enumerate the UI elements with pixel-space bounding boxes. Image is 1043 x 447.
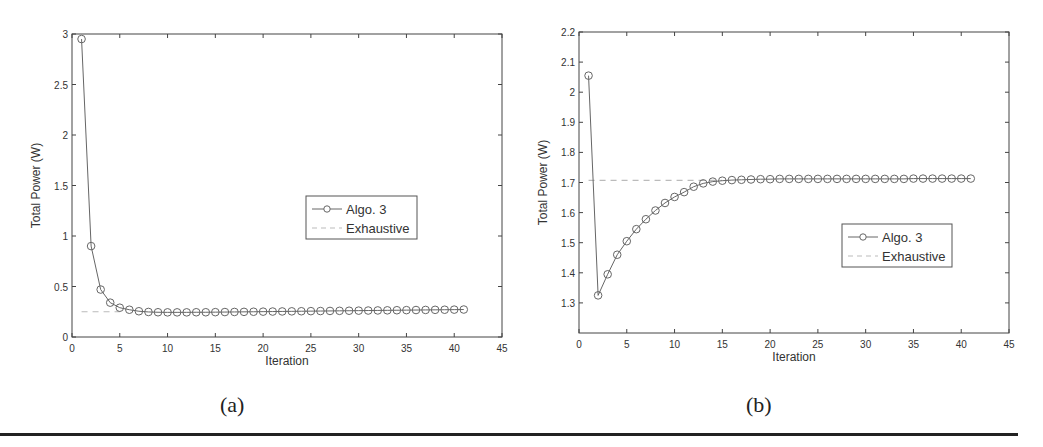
x-tick-label: 30 (860, 339, 872, 350)
y-tick-label: 1 (62, 231, 68, 242)
y-tick-label: 1.6 (561, 208, 575, 219)
y-tick-label: 2.2 (561, 27, 575, 38)
plot-area (72, 34, 502, 337)
y-tick-label: 0.5 (54, 282, 68, 293)
chart-a: 05101520253035404500.511.522.53Iteration… (29, 29, 508, 368)
y-tick-label: 2.1 (561, 57, 575, 68)
y-tick-label: 0 (62, 332, 68, 343)
legend: Algo. 3Exhaustive (842, 224, 952, 267)
x-tick-label: 10 (669, 339, 681, 350)
x-tick-label: 40 (449, 343, 461, 354)
legend-label-exhaustive: Exhaustive (346, 221, 410, 236)
x-tick-label: 25 (812, 339, 824, 350)
x-tick-label: 25 (305, 343, 317, 354)
x-tick-label: 20 (258, 343, 270, 354)
x-tick-label: 35 (908, 339, 920, 350)
x-axis-label: Iteration (772, 350, 815, 364)
y-axis-label: Total Power (W) (536, 140, 550, 225)
y-tick-label: 1.4 (561, 268, 575, 279)
legend-circle-marker-icon (860, 234, 866, 240)
y-tick-label: 1.7 (561, 178, 575, 189)
x-tick-label: 40 (956, 339, 968, 350)
y-tick-label: 1.5 (561, 238, 575, 249)
x-tick-label: 15 (210, 343, 222, 354)
x-tick-label: 45 (1003, 339, 1015, 350)
figure-canvas: 05101520253035404500.511.522.53Iteration… (0, 0, 1043, 447)
legend-label-algo3: Algo. 3 (346, 202, 386, 217)
plot-area (579, 32, 1009, 333)
y-tick-label: 3 (62, 29, 68, 40)
x-tick-label: 35 (401, 343, 413, 354)
y-tick-label: 2 (62, 130, 68, 141)
y-tick-label: 2.5 (54, 80, 68, 91)
bottom-rule (0, 433, 1018, 436)
legend-label-algo3: Algo. 3 (882, 230, 922, 245)
x-tick-label: 45 (496, 343, 508, 354)
legend-circle-marker-icon (324, 206, 330, 212)
y-axis-label: Total Power (W) (29, 143, 43, 228)
caption-b: (b) (746, 392, 772, 418)
x-tick-label: 15 (717, 339, 729, 350)
x-tick-label: 20 (765, 339, 777, 350)
y-tick-label: 1.8 (561, 147, 575, 158)
x-tick-label: 5 (117, 343, 123, 354)
x-tick-label: 0 (69, 343, 75, 354)
y-tick-label: 1.9 (561, 117, 575, 128)
legend: Algo. 3Exhaustive (306, 196, 417, 239)
chart-b: 0510152025303540451.31.41.51.61.71.81.92… (536, 27, 1015, 364)
x-tick-label: 0 (576, 339, 582, 350)
caption-a: (a) (220, 392, 244, 418)
y-tick-label: 1.3 (561, 298, 575, 309)
x-tick-label: 5 (624, 339, 630, 350)
legend-label-exhaustive: Exhaustive (882, 249, 946, 264)
y-tick-label: 2 (569, 87, 575, 98)
x-tick-label: 30 (353, 343, 365, 354)
x-tick-label: 10 (162, 343, 174, 354)
y-tick-label: 1.5 (54, 181, 68, 192)
x-axis-label: Iteration (265, 354, 308, 368)
